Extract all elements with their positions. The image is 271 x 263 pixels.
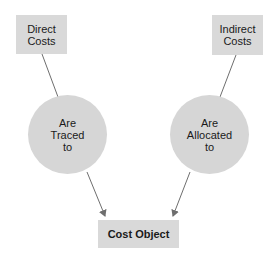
traced-circle: Are Traced to bbox=[28, 95, 107, 174]
cost-object-box: Cost Object bbox=[98, 220, 179, 248]
traced-label: Are Traced to bbox=[51, 117, 85, 153]
cost-object-label: Cost Object bbox=[108, 228, 170, 240]
direct-costs-label: Direct Costs bbox=[27, 23, 56, 47]
line-direct-to-traced bbox=[42, 54, 58, 97]
indirect-costs-label: Indirect Costs bbox=[219, 23, 255, 47]
arrow-traced-to-cost-object bbox=[87, 172, 105, 216]
direct-costs-box: Direct Costs bbox=[16, 15, 67, 54]
indirect-costs-box: Indirect Costs bbox=[212, 15, 263, 55]
line-indirect-to-allocated bbox=[220, 55, 236, 97]
arrow-allocated-to-cost-object bbox=[173, 172, 190, 216]
allocated-circle: Are Allocated to bbox=[170, 95, 249, 174]
allocated-label: Are Allocated to bbox=[187, 117, 232, 153]
